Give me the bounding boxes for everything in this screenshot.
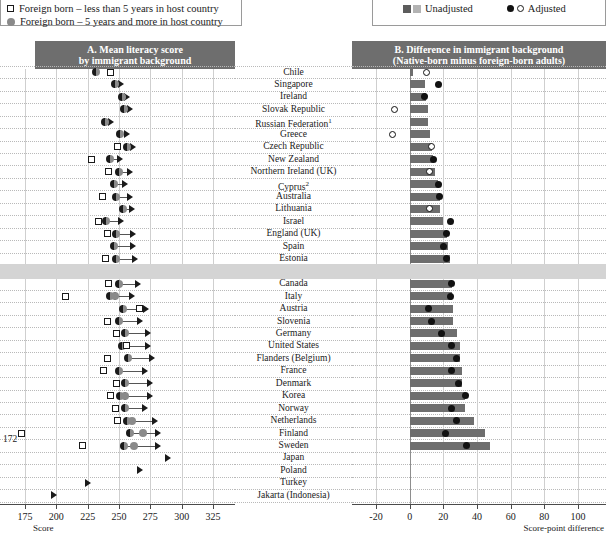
arrow-head-icon — [137, 317, 143, 325]
row-gridline — [0, 439, 235, 440]
country-label: Jakarta (Indonesia) — [235, 490, 352, 501]
marker-foreign-born-under5 — [112, 405, 119, 412]
panel-a-axis-line — [0, 504, 235, 505]
row-gridline — [352, 452, 606, 453]
country-label: Slovenia — [235, 316, 352, 327]
row-gridline — [352, 402, 606, 403]
bar-unadjusted — [410, 130, 430, 138]
dot-adjusted — [435, 181, 442, 188]
row-gridline — [352, 103, 606, 104]
arrow-head-icon — [155, 429, 161, 437]
row-gridline — [352, 215, 606, 216]
marker-foreign-born-under5 — [100, 367, 107, 374]
marker-native-born — [115, 317, 123, 325]
row-gridline — [352, 302, 606, 303]
country-label: Singapore — [235, 79, 352, 90]
arrow-head-icon — [149, 354, 155, 362]
row-gridline — [352, 340, 606, 341]
row-gridline — [352, 502, 606, 503]
marker-native-born — [115, 168, 123, 176]
panel-b-gridline — [511, 69, 512, 504]
bar-unadjusted — [410, 442, 491, 450]
row-gridline — [352, 178, 606, 179]
dot-adjusted — [440, 243, 447, 250]
arrow-head-icon — [142, 404, 148, 412]
marker-foreign-born-under5 — [114, 417, 121, 424]
panel-a-plot — [0, 69, 235, 504]
marker-foreign-born-5plus — [130, 442, 138, 450]
row-gridline — [0, 452, 235, 453]
country-label: Finland — [235, 428, 352, 439]
panel-b-axis-tick — [443, 504, 444, 509]
country-label: Australia — [235, 191, 352, 202]
row-gridline — [352, 203, 606, 204]
country-label: Israel — [235, 216, 352, 227]
panel-a-gridline — [56, 69, 57, 504]
arrow-head-icon — [147, 379, 153, 387]
marker-foreign-born-under5 — [107, 69, 114, 76]
country-label: Northern Ireland (UK) — [235, 166, 352, 177]
row-gridline — [0, 352, 235, 353]
range-connector-line — [124, 446, 156, 447]
row-gridline — [0, 464, 235, 465]
marker-foreign-born-under5 — [95, 218, 102, 225]
country-label: Chile — [235, 67, 352, 78]
panel-a-axis-tick-label: 325 — [193, 511, 233, 522]
marker-native-born — [106, 155, 114, 163]
country-label: United States — [235, 340, 352, 351]
marker-foreign-born-5plus — [128, 417, 136, 425]
row-gridline — [352, 489, 606, 490]
dot-adjusted — [430, 156, 437, 163]
country-label: Poland — [235, 465, 352, 476]
panel-b-axis-tick — [544, 504, 545, 509]
row-gridline — [0, 502, 235, 503]
dot-adjusted — [443, 230, 450, 237]
panel-a-title: A. Mean literacy score — [87, 44, 183, 56]
arrow-head-icon — [127, 168, 133, 176]
row-gridline — [235, 502, 352, 503]
arrow-head-icon — [137, 466, 143, 474]
country-label: Netherlands — [235, 415, 352, 426]
panel-b-subtitle: (Native-born minus foreign-born adults) — [393, 55, 565, 67]
open-circle-icon — [517, 5, 524, 12]
country-label: Czech Republic — [235, 141, 352, 152]
marker-foreign-born-under5 — [104, 318, 111, 325]
country-label: Lithuania — [235, 203, 352, 214]
country-label: Norway — [235, 403, 352, 414]
bar-unadjusted — [410, 193, 440, 201]
row-gridline — [0, 427, 235, 428]
arrow-head-icon — [165, 454, 171, 462]
row-gridline — [352, 390, 606, 391]
bar-unadjusted — [410, 105, 429, 113]
dot-adjusted — [448, 280, 455, 287]
footnote-marker: 1 — [328, 117, 332, 125]
bar-unadjusted — [410, 80, 425, 88]
panel-b-axis-label: Score-point difference — [523, 523, 604, 533]
country-label: Estonia — [235, 253, 352, 264]
panel-a-gridline — [213, 69, 214, 504]
row-gridline — [352, 377, 606, 378]
arrow-head-icon — [130, 143, 136, 151]
row-gridline — [0, 340, 235, 341]
marker-native-born — [124, 354, 132, 362]
row-gridline — [0, 253, 235, 254]
marker-native-born — [118, 93, 126, 101]
filled-circle-icon — [507, 5, 514, 12]
country-label: Sweden — [235, 440, 352, 451]
panel-b-title: B. Difference in immigrant background — [395, 44, 564, 56]
row-gridline — [0, 390, 235, 391]
marker-foreign-born-5plus — [121, 392, 129, 400]
country-label: Spain — [235, 241, 352, 252]
country-label: Austria — [235, 303, 352, 314]
legend-item-foreign-born-ge5: Foreign born – 5 years and more in host … — [7, 15, 235, 28]
row-gridline — [352, 365, 606, 366]
marker-foreign-born-under5 — [88, 156, 95, 163]
arrow-head-icon — [130, 230, 136, 238]
highlight-band-oecd-average — [0, 264, 606, 279]
legend-label: Foreign born – less than 5 years in host… — [19, 2, 219, 15]
row-gridline — [0, 315, 235, 316]
marker-native-born — [115, 280, 123, 288]
row-gridline — [0, 66, 235, 67]
panel-b-axis-tick — [578, 504, 579, 509]
country-label: Germany — [235, 328, 352, 339]
